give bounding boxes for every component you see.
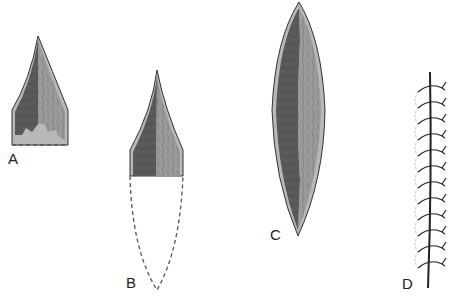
panel-d-axis: [428, 72, 431, 288]
panel-a: [12, 36, 68, 145]
panel-b-missing-lower-outline: [130, 176, 183, 290]
panel-c: [272, 2, 325, 236]
figure-canvas: [0, 0, 456, 296]
panel-d: [415, 72, 446, 288]
panel-d-loops: [418, 82, 446, 268]
panel-c-label: C: [270, 226, 281, 243]
panel-d-label: D: [402, 275, 413, 292]
panel-b: [130, 70, 183, 290]
panel-a-label: A: [8, 150, 18, 167]
panel-b-label: B: [126, 274, 136, 291]
